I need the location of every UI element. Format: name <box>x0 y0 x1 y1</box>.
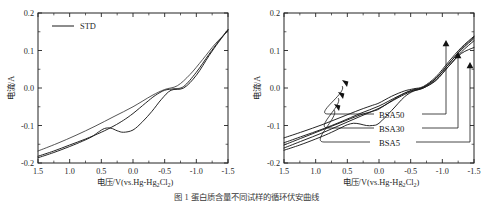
y-tick-label: 0.1 <box>270 47 280 56</box>
left-x-tick-labels: 1.51.00.50.0-0.5-1.0-1.5 <box>33 167 235 176</box>
x-tick-label: 0.5 <box>342 167 352 176</box>
right-y-tick-labels: 0.20.10.0-0.1-0.2 <box>267 9 280 168</box>
left-axes <box>38 13 228 163</box>
x-tick-label: -0.5 <box>404 167 417 176</box>
plot-frame <box>38 13 228 163</box>
right-x-title-end: ) <box>417 178 420 187</box>
right-y-axis-title: 电流/A <box>252 76 262 100</box>
y-tick-label: 0.0 <box>24 84 34 93</box>
chart-panel-left: 1.51.00.50.0-0.5-1.0-1.5 0.20.10.0-0.1-0… <box>0 0 247 201</box>
arrowhead-left <box>342 80 348 87</box>
x-tick-label: 1.0 <box>311 167 321 176</box>
right-x-title-main: 电压/V(vs.Hg-Hg <box>343 177 404 187</box>
y-tick-label: 0.2 <box>24 9 34 18</box>
y-tick-label: -0.1 <box>21 122 34 131</box>
left-plot-svg: 1.51.00.50.0-0.5-1.0-1.5 0.20.10.0-0.1-0… <box>0 0 247 201</box>
left-x-axis-title: 电压/V(vs.Hg-Hg2Cl2) <box>97 177 174 188</box>
arrowhead-left <box>334 104 340 111</box>
x-tick-label: 1.5 <box>33 167 43 176</box>
left-x-title-end: ) <box>171 178 174 187</box>
x-tick-label: -1.5 <box>468 167 481 176</box>
left-curves <box>38 30 228 158</box>
left-y-tick-labels: 0.20.10.0-0.1-0.2 <box>21 9 34 168</box>
right-plot-svg: 1.51.00.50.0-0.5-1.0-1.5 0.20.10.0-0.1-0… <box>246 0 493 201</box>
figure-container: 1.51.00.50.0-0.5-1.0-1.5 0.20.10.0-0.1-0… <box>0 0 493 201</box>
y-tick-label: -0.2 <box>267 159 280 168</box>
series-label-bsa50: BSA50 <box>379 110 404 120</box>
series-label-bsa5: BSA5 <box>379 138 400 148</box>
curve-std-forward <box>38 30 228 157</box>
curve-std-reverse <box>38 30 228 158</box>
left-tick-marks <box>38 13 228 163</box>
legend-label-std: STD <box>80 22 96 31</box>
arrowhead-left <box>338 92 344 99</box>
x-tick-label: -1.0 <box>436 167 449 176</box>
right-x-tick-labels: 1.51.00.50.0-0.5-1.0-1.5 <box>279 167 481 176</box>
leader-curve-left-0 <box>325 86 374 114</box>
x-tick-label: -1.5 <box>222 167 235 176</box>
y-tick-label: 0.0 <box>270 84 280 93</box>
arrowhead-up <box>443 40 450 46</box>
y-tick-label: -0.2 <box>21 159 34 168</box>
x-tick-label: -1.0 <box>190 167 203 176</box>
x-tick-label: 1.5 <box>279 167 289 176</box>
curve-bsa50 <box>284 36 474 138</box>
left-x-title-main: 电压/V(vs.Hg-Hg <box>97 177 158 187</box>
x-tick-label: 0.5 <box>96 167 106 176</box>
y-tick-label: -0.1 <box>267 122 280 131</box>
x-tick-label: 0.0 <box>128 167 138 176</box>
arrowhead-up <box>467 62 474 68</box>
figure-caption: 图 1 蛋白质含量不同试样的循环伏安曲线 <box>0 193 493 201</box>
y-tick-label: 0.2 <box>270 9 280 18</box>
series-label-bsa30: BSA30 <box>379 124 404 134</box>
y-tick-label: 0.1 <box>24 47 34 56</box>
chart-panel-right: 1.51.00.50.0-0.5-1.0-1.5 0.20.10.0-0.1-0… <box>246 0 493 201</box>
curve-std-upper <box>38 31 228 151</box>
right-x-axis-title: 电压/V(vs.Hg-Hg2Cl2) <box>343 177 420 188</box>
legend-std: STD <box>52 22 96 31</box>
curve-bsa5 <box>284 48 474 151</box>
x-tick-label: -0.5 <box>158 167 171 176</box>
x-tick-label: 1.0 <box>65 167 75 176</box>
x-tick-label: 0.0 <box>374 167 384 176</box>
left-y-axis-title: 电流/A <box>6 76 16 100</box>
